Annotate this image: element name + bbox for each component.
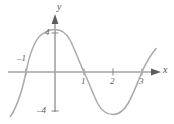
y-tick-label-4: 4 (45, 28, 50, 37)
y-tick-label-minus4: –4 (37, 106, 46, 115)
x-axis-label: x (163, 65, 167, 75)
graph-canvas (0, 0, 174, 124)
x-tick-label-1: 1 (81, 77, 86, 86)
y-axis-label: y (57, 2, 61, 12)
curve-path (11, 30, 157, 117)
x-axis-arrow-icon (151, 69, 161, 76)
x-tick-label-minus1: –1 (17, 54, 26, 63)
graph-figure: –1 1 2 3 4 –4 y x (0, 0, 174, 124)
x-tick-label-2: 2 (110, 77, 115, 86)
x-tick-label-3: 3 (139, 77, 144, 86)
y-axis-arrow-icon (52, 14, 59, 24)
